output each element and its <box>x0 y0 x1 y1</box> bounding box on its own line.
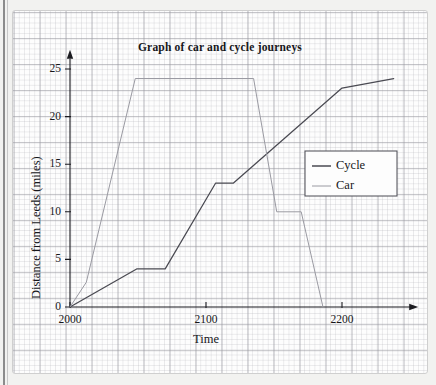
y-tick-label: 10 <box>13 205 61 217</box>
graph-paper-panel: Graph of car and cycle journeys Time Dis… <box>12 10 428 374</box>
x-tick-label: 2200 <box>312 313 372 325</box>
y-tick-label: 15 <box>13 157 61 169</box>
y-axis-label: Distance from Leeds (miles) <box>29 156 44 299</box>
x-tick-label: 2100 <box>176 313 236 325</box>
chart-title: Graph of car and cycle journeys <box>13 41 427 53</box>
y-tick-label: 0 <box>13 300 61 312</box>
x-axis-label: Time <box>13 332 399 347</box>
legend-label-cycle: Cycle <box>336 158 365 173</box>
scanned-page: Graph of car and cycle journeys Time Dis… <box>0 0 436 385</box>
page-edge-dark <box>3 0 5 385</box>
y-tick-label: 25 <box>13 62 61 74</box>
x-tick-label: 2000 <box>40 313 100 325</box>
y-tick-label: 5 <box>13 252 61 264</box>
x-axis-arrow <box>409 304 418 310</box>
series-line-car <box>70 79 323 307</box>
y-tick-label: 20 <box>13 110 61 122</box>
page-edge-light <box>7 0 8 385</box>
legend-label-car: Car <box>336 178 354 193</box>
